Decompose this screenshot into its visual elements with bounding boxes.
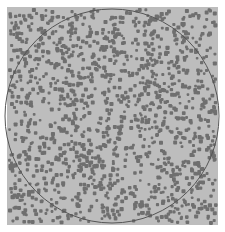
dot-field-image — [0, 0, 225, 232]
dot-field-svg — [0, 0, 225, 232]
